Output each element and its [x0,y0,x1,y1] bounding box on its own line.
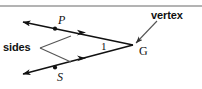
ray-gs [23,45,133,74]
sides-callout-leader [40,36,71,62]
ray-gs-direction-arrow [77,56,86,62]
point-dot-s [53,65,57,69]
label-point-p: P [58,14,65,26]
ray-gp [23,22,133,45]
vertex-callout-leader [136,21,157,43]
label-sides-callout: sides [3,42,31,53]
label-angle-number: 1 [101,41,107,52]
label-vertex-point-g: G [139,45,148,57]
label-vertex-callout: vertex [151,10,183,21]
angle-diagram: P S G 1 sides vertex [0,0,202,89]
point-dot-p [53,27,57,31]
label-point-s: S [57,71,63,83]
